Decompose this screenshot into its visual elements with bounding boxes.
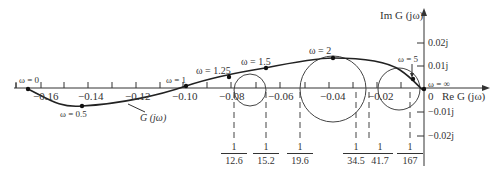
real-tick-label: −0.14 (78, 91, 103, 102)
real-tick-label: −0.12 (125, 91, 150, 102)
real-tick-label: −0.10 (172, 91, 197, 102)
omega-1-label: ω = 1 (166, 76, 186, 85)
real-tick-label: −0.08 (219, 91, 244, 102)
omega-0.5-label: ω = 0.5 (60, 110, 87, 119)
g-jw-curve-label: G (jω) (140, 113, 166, 123)
omega-1.5-label: ω = 1.5 (241, 57, 271, 67)
imag-tick-label: 0.01j (428, 61, 448, 71)
omega-2-label: ω = 2 (309, 46, 331, 56)
intercept-fraction: 141.7 (367, 142, 393, 166)
imag-tick-label: −0.02j (428, 131, 454, 141)
omega-1.25-label: ω = 1.25 (196, 66, 231, 76)
origin-label: 0 (428, 91, 434, 102)
real-tick-label: −0.04 (320, 91, 345, 102)
intercept-fraction: 112.6 (221, 142, 247, 166)
real-axis-label: Re G (jω) (442, 91, 485, 102)
curve-label-pointer (128, 104, 145, 112)
intercept-fraction: 119.6 (287, 142, 313, 166)
omega-infinity-label: ω = ∞ (428, 80, 450, 89)
imag-tick-label: 0.02j (428, 38, 448, 48)
real-tick-label: −0.02 (368, 91, 393, 102)
omega-0-label: ω = 0 (19, 76, 39, 85)
real-axis-ticks (16, 82, 401, 88)
intercept-fraction: 134.5 (343, 142, 369, 166)
imag-tick-label: −0.01j (428, 107, 454, 117)
intercept-fraction: 1167 (397, 142, 423, 166)
omega-5-label: ω = 5 (398, 55, 418, 64)
polar-plot-canvas (0, 0, 499, 171)
intercept-fraction: 115.2 (253, 142, 279, 166)
real-tick-label: −0.06 (268, 91, 293, 102)
imag-axis-label: Im G (jω) (380, 10, 423, 21)
real-tick-label: −0.16 (33, 91, 58, 102)
